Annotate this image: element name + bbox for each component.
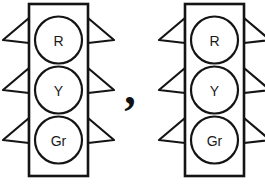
right-traffic-light-red-visor-left: [159, 18, 185, 43]
right-traffic-light-yellow-label: Y: [210, 83, 220, 99]
right-traffic-light-green-label: Gr: [207, 133, 223, 149]
diagram-canvas: RYGrRYGr,: [0, 0, 265, 187]
left-traffic-light: RYGr: [3, 4, 114, 176]
right-traffic-light-yellow-visor-left: [159, 68, 185, 93]
left-traffic-light-green-label: Gr: [51, 133, 67, 149]
left-traffic-light-red-visor-right: [88, 18, 114, 43]
right-traffic-light-yellow-visor-right: [244, 68, 265, 93]
left-traffic-light-yellow-visor-right: [88, 68, 114, 93]
traffic-lights-illustration: RYGrRYGr,: [0, 0, 265, 187]
left-traffic-light-green-visor-left: [3, 118, 29, 143]
right-traffic-light-green-visor-right: [244, 118, 265, 143]
left-traffic-light-green-visor-right: [88, 118, 114, 143]
left-traffic-light-red-label: R: [53, 33, 63, 49]
right-traffic-light: RYGr: [159, 4, 265, 176]
right-traffic-light-red-visor-right: [244, 18, 265, 43]
left-traffic-light-yellow-visor-left: [3, 68, 29, 93]
right-traffic-light-red-label: R: [209, 33, 219, 49]
comma-separator: ,: [124, 63, 136, 114]
left-traffic-light-yellow-label: Y: [54, 83, 64, 99]
right-traffic-light-green-visor-left: [159, 118, 185, 143]
left-traffic-light-red-visor-left: [3, 18, 29, 43]
